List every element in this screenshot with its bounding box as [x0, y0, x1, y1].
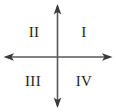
quadrant-diagram: I II III IV	[0, 0, 116, 112]
quadrant-label-i: I	[81, 25, 86, 40]
quadrant-label-iii: III	[25, 74, 41, 89]
quadrant-label-iv: IV	[76, 74, 92, 89]
quadrant-label-ii: II	[29, 25, 40, 40]
axes-graphic	[0, 0, 116, 112]
